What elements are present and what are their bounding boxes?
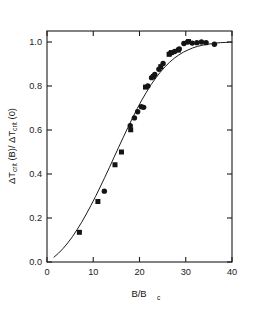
- y-title-sub-2: crit: [11, 122, 18, 131]
- y-axis-ticks: 0.00.20.40.60.81.0: [29, 37, 232, 267]
- data-point-circle: [185, 39, 190, 44]
- y-axis-title: ΔTcrit (B)/ ΔTcrit (0): [6, 108, 18, 184]
- data-series-circles: [102, 39, 217, 194]
- y-tick-label: 0.4: [29, 169, 42, 179]
- figure-container: 010203040 0.00.20.40.60.81.0 B/B c ΔTcri…: [0, 0, 264, 314]
- x-tick-label: 40: [227, 267, 237, 277]
- data-point-circle: [102, 188, 107, 193]
- data-point-circle: [203, 40, 208, 45]
- data-point-circle: [132, 115, 137, 120]
- data-point-square: [95, 199, 100, 204]
- data-point-circle: [177, 46, 182, 51]
- y-tick-label: 0.0: [29, 257, 42, 267]
- data-point-circle: [190, 40, 195, 45]
- data-point-circle: [160, 61, 165, 66]
- y-title-tail-2: (0): [6, 108, 17, 122]
- axes-border: [47, 31, 232, 262]
- data-point-circle: [194, 40, 199, 45]
- scatter-plot: 010203040 0.00.20.40.60.81.0 B/B c ΔTcri…: [0, 0, 264, 314]
- data-point-square: [77, 230, 82, 235]
- y-tick-label: 1.0: [29, 37, 42, 47]
- x-axis-title-subscript: c: [157, 294, 161, 301]
- y-tick-label: 0.2: [29, 213, 42, 223]
- x-tick-label: 0: [44, 267, 49, 277]
- data-point-circle: [199, 39, 204, 44]
- data-point-circle: [141, 105, 146, 110]
- data-series-squares: [77, 39, 191, 235]
- x-axis-title-main: B/B: [131, 288, 146, 299]
- data-point-square: [119, 150, 124, 155]
- plot-frame: [47, 31, 232, 262]
- y-title-delta-1: ΔT: [6, 172, 17, 184]
- data-point-circle: [128, 123, 133, 128]
- x-tick-label: 10: [88, 267, 98, 277]
- data-point-circle: [172, 49, 177, 54]
- data-point-square: [112, 162, 117, 167]
- x-axis-title: B/B c: [131, 288, 161, 301]
- y-axis-title-text: ΔTcrit (B)/ ΔTcrit (0): [6, 108, 18, 184]
- data-point-circle: [152, 72, 157, 77]
- data-point-circle: [167, 51, 172, 56]
- fit-curve: [54, 42, 232, 257]
- y-tick-label: 0.8: [29, 81, 42, 91]
- y-title-tail-1: (B)/: [6, 143, 17, 163]
- x-tick-label: 30: [181, 267, 191, 277]
- data-point-circle: [135, 109, 140, 114]
- x-tick-label: 20: [134, 267, 144, 277]
- data-point-circle: [145, 83, 150, 88]
- data-point-circle: [156, 67, 161, 72]
- y-title-sub-1: crit: [11, 163, 18, 172]
- y-title-delta-2: ΔT: [6, 131, 17, 143]
- x-axis-ticks: 010203040: [44, 31, 237, 277]
- y-tick-label: 0.6: [29, 125, 42, 135]
- data-point-circle: [212, 42, 217, 47]
